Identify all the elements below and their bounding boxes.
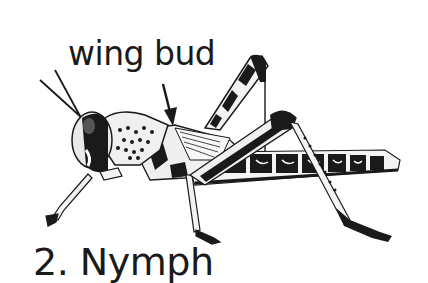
middle-leg	[186, 175, 220, 244]
head	[72, 112, 112, 172]
antennae	[40, 70, 82, 118]
front-legs	[46, 168, 122, 226]
locust-nymph-illustration	[0, 0, 428, 283]
pointer-arrow-icon	[163, 84, 177, 126]
eye-icon	[83, 118, 95, 134]
